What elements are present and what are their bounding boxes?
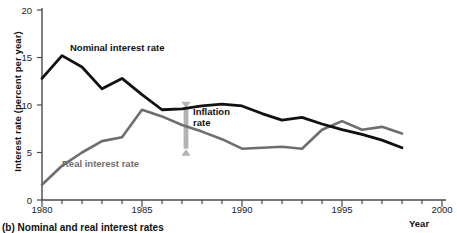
nominal-series-label: Nominal interest rate [70, 42, 165, 53]
y-axis-ticks [37, 10, 42, 200]
nominal-interest-rate-line [42, 56, 402, 148]
inflation-rate-label-line1: Inflation [193, 106, 230, 117]
x-axis-ticks [42, 200, 442, 207]
inflation-rate-label: Inflation rate [193, 106, 249, 128]
figure-caption: (b) Nominal and real interest rates [2, 222, 164, 233]
inflation-rate-label-line2: rate [193, 117, 210, 128]
real-series-label: Real interest rate [62, 158, 139, 169]
